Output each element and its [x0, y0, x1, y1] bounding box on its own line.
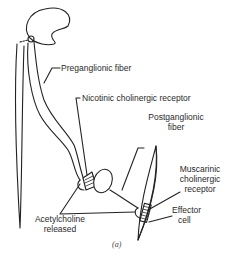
label-muscarinic-line3: receptor	[175, 184, 225, 194]
label-muscarinic-line2: cholinergic	[175, 174, 225, 184]
label-ach-line2: released	[28, 224, 92, 234]
label-ach-line1: Acetylcholine	[28, 214, 92, 224]
postganglionic-fiber	[110, 190, 138, 208]
effector-cell	[138, 146, 157, 240]
leader-preganglionic	[44, 68, 60, 83]
figure-caption: (a)	[112, 240, 121, 250]
label-muscarinic-receptor: Muscarinic cholinergic receptor	[175, 164, 225, 194]
cns-cell-body	[26, 8, 69, 45]
label-effector-line1: Effector	[172, 205, 201, 215]
label-effector-line2: cell	[172, 215, 201, 225]
label-postganglionic-fiber: Postganglionic fiber	[146, 112, 206, 132]
label-effector-cell: Effector cell	[172, 205, 201, 225]
label-preganglionic-fiber: Preganglionic fiber	[61, 63, 131, 73]
leader-nicotinic	[76, 98, 87, 175]
label-nicotinic-receptor: Nicotinic cholinergic receptor	[82, 93, 191, 103]
label-postganglionic-line1: Postganglionic	[146, 112, 206, 122]
leader-effector	[149, 216, 172, 222]
label-acetylcholine-released: Acetylcholine released	[28, 214, 92, 234]
spinal-fiber	[16, 44, 24, 228]
label-postganglionic-line2: fiber	[146, 122, 206, 132]
label-muscarinic-line1: Muscarinic	[175, 164, 225, 174]
